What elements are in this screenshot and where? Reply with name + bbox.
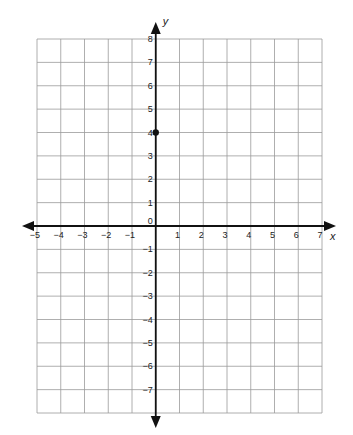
data-point <box>153 129 159 135</box>
x-tick-label: 6 <box>294 230 299 240</box>
x-tick-label: 7 <box>317 230 322 240</box>
x-tick-label: 1 <box>175 230 180 240</box>
arrow-up-icon <box>151 22 161 34</box>
y-tick-label: −6 <box>142 361 152 371</box>
x-tick-labels: −5−4−3−2−11234567 <box>30 230 323 240</box>
plotted-points <box>153 129 159 135</box>
x-axis-label: x <box>329 230 336 242</box>
origin-label: 0 <box>148 216 153 226</box>
x-tick-label: −4 <box>54 230 64 240</box>
y-tick-label: 7 <box>148 57 153 67</box>
y-tick-label: 1 <box>148 198 153 208</box>
y-tick-label: −4 <box>142 315 152 325</box>
y-tick-label: −5 <box>142 338 152 348</box>
x-tick-label: −3 <box>77 230 87 240</box>
y-tick-label: 8 <box>148 34 153 44</box>
y-tick-label: −7 <box>142 385 152 395</box>
y-tick-label: −2 <box>142 268 152 278</box>
coordinate-plane: −5−4−3−2−11234567 −7−6−5−4−3−2−112345678… <box>0 0 353 435</box>
y-tick-label: −3 <box>142 291 152 301</box>
x-tick-label: −2 <box>101 230 111 240</box>
x-tick-label: 3 <box>222 230 227 240</box>
y-tick-label: 6 <box>148 81 153 91</box>
y-tick-label: 3 <box>148 151 153 161</box>
y-tick-label: 5 <box>148 104 153 114</box>
x-tick-label: 4 <box>246 230 251 240</box>
y-tick-label: 4 <box>148 128 153 138</box>
x-tick-label: 5 <box>270 230 275 240</box>
arrow-down-icon <box>151 416 161 428</box>
x-tick-label: −1 <box>125 230 135 240</box>
y-axis-label: y <box>162 15 170 27</box>
y-tick-label: −1 <box>142 244 152 254</box>
x-tick-label: −5 <box>30 230 40 240</box>
axes <box>22 22 336 428</box>
y-tick-labels: −7−6−5−4−3−2−112345678 <box>142 34 152 395</box>
x-tick-label: 2 <box>199 230 204 240</box>
y-tick-label: 2 <box>148 174 153 184</box>
